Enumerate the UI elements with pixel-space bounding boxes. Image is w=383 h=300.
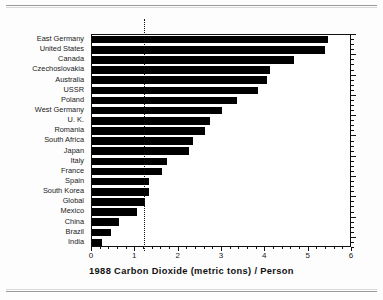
- y-axis-label: South Africa: [0, 135, 88, 145]
- x-tick: [342, 247, 343, 249]
- x-tick: [126, 247, 127, 249]
- bar: [92, 229, 111, 237]
- x-tick: [169, 247, 170, 249]
- bar-series: [92, 35, 350, 246]
- chart-figure: East GermanyUnited StatesCanadaCzechoslo…: [0, 0, 383, 300]
- y-axis-label: West Germany: [0, 105, 88, 115]
- x-tick: [143, 247, 144, 249]
- plot-area: [91, 34, 351, 247]
- bar: [92, 168, 162, 176]
- right-edge-tick: [351, 176, 356, 177]
- x-tick: [230, 247, 231, 249]
- right-edge-tick: [351, 166, 354, 167]
- right-edge-tick: [351, 181, 354, 182]
- bar-row: [92, 147, 350, 157]
- y-axis-label: Global: [0, 196, 88, 206]
- x-tick: [316, 247, 317, 249]
- bar: [92, 188, 149, 196]
- right-edge-tick: [351, 80, 354, 81]
- bar-row: [92, 228, 350, 238]
- y-axis-label: Italy: [0, 156, 88, 166]
- right-edge-tick: [351, 171, 354, 172]
- bar: [92, 239, 102, 247]
- y-axis-category-labels: East GermanyUnited StatesCanadaCzechoslo…: [0, 34, 88, 247]
- x-tick: [264, 247, 265, 251]
- right-edge-tick: [351, 151, 354, 152]
- x-tick: [152, 247, 153, 249]
- bar-row: [92, 197, 350, 207]
- right-edge-tick: [351, 54, 356, 55]
- x-tick: [351, 247, 352, 251]
- bar: [92, 76, 267, 84]
- right-edge-tick: [351, 115, 356, 116]
- y-axis-label: East Germany: [0, 34, 88, 44]
- bar-row: [92, 177, 350, 187]
- x-tick: [108, 247, 109, 249]
- x-tick: [256, 247, 257, 249]
- x-tick-label: 0: [89, 251, 93, 260]
- bar: [92, 137, 193, 145]
- right-edge-tick: [351, 39, 354, 40]
- y-axis-label: Mexico: [0, 206, 88, 216]
- right-edge-tick: [351, 227, 354, 228]
- y-axis-label: Romania: [0, 125, 88, 135]
- bar-row: [92, 207, 350, 217]
- x-tick: [117, 247, 118, 249]
- right-edge-tick: [351, 237, 356, 238]
- bar: [92, 87, 258, 95]
- right-edge-tick: [351, 95, 356, 96]
- x-tick: [186, 247, 187, 249]
- y-axis-label: France: [0, 166, 88, 176]
- y-axis-label: United States: [0, 44, 88, 54]
- right-edge-tick: [351, 75, 356, 76]
- x-tick: [325, 247, 326, 249]
- x-tick: [178, 247, 179, 251]
- right-edge-tick: [351, 44, 354, 45]
- right-edge-tick: [351, 49, 354, 50]
- page-rule-bottom-secondary: [6, 289, 377, 290]
- right-edge-tick: [351, 191, 354, 192]
- x-tick: [212, 247, 213, 249]
- right-edge-tick: [351, 110, 354, 111]
- bar-row: [92, 86, 350, 96]
- right-edge-tick: [351, 120, 354, 121]
- right-edge-tick: [351, 64, 354, 65]
- y-axis-label: U. K.: [0, 115, 88, 125]
- right-edge-tick: [351, 212, 354, 213]
- bar: [92, 46, 325, 54]
- x-tick: [160, 247, 161, 249]
- y-axis-label: Czechoslovakia: [0, 64, 88, 74]
- right-edge-tick: [351, 135, 356, 136]
- y-axis-label: Japan: [0, 146, 88, 156]
- bar-row: [92, 55, 350, 65]
- x-tick-label: 5: [305, 251, 309, 260]
- x-tick: [290, 247, 291, 249]
- right-edge-tick: [351, 186, 354, 187]
- bar-row: [92, 45, 350, 55]
- bar: [92, 158, 167, 166]
- bar-row: [92, 157, 350, 167]
- right-edge-tick: [351, 59, 354, 60]
- right-edge-tick: [351, 105, 354, 106]
- bar: [92, 218, 119, 226]
- right-edge-tick: [351, 201, 354, 202]
- bar: [92, 198, 145, 206]
- bar: [92, 147, 189, 155]
- bar: [92, 66, 270, 74]
- right-edge-tick: [351, 242, 354, 243]
- right-edge-tick: [351, 232, 354, 233]
- y-axis-label: Canada: [0, 54, 88, 64]
- bar: [92, 127, 205, 135]
- bar-row: [92, 76, 350, 86]
- y-axis-label: Poland: [0, 95, 88, 105]
- bar: [92, 178, 149, 186]
- x-tick: [282, 247, 283, 249]
- bar-row: [92, 65, 350, 75]
- bar-row: [92, 116, 350, 126]
- x-tick-label: 2: [175, 251, 179, 260]
- x-tick-label: 4: [262, 251, 266, 260]
- x-tick: [91, 247, 92, 251]
- x-tick-label: 6: [349, 251, 353, 260]
- page-rule-bottom: [6, 291, 377, 292]
- right-edge-tick: [351, 85, 354, 86]
